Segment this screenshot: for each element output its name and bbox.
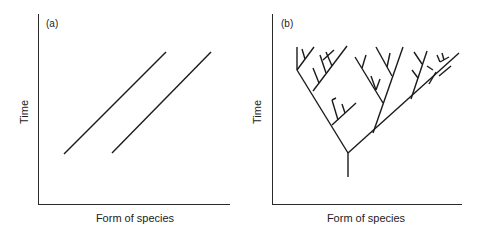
lineage-line-2: [112, 52, 211, 153]
panel-b-y-label: Time: [251, 100, 263, 124]
panel-a: (a) Time Form of species: [18, 14, 230, 224]
panel-b-x-label: Form of species: [327, 212, 406, 224]
panel-b: (b) Time Form of species: [251, 14, 462, 224]
panel-b-label: (b): [281, 18, 293, 29]
figure-canvas: (a) Time Form of species (b) Time Form o…: [0, 0, 479, 230]
phylogenetic-tree: [297, 46, 459, 177]
panel-a-label: (a): [46, 18, 58, 29]
lineage-line-1: [64, 52, 166, 154]
panel-a-y-label: Time: [18, 100, 30, 124]
panel-a-x-label: Form of species: [96, 212, 175, 224]
